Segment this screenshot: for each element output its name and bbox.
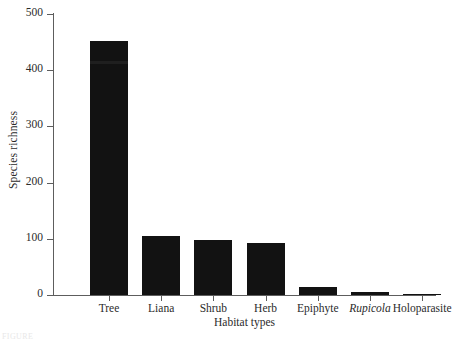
bar (247, 243, 285, 295)
x-axis-tick-label: Herb (254, 302, 277, 314)
bar (90, 41, 128, 295)
bar (299, 287, 337, 295)
bar (351, 292, 389, 295)
x-axis-tick-mark (318, 296, 319, 301)
x-axis-tick-mark (266, 296, 267, 301)
x-axis-tick-label: Shrub (200, 302, 227, 314)
x-axis-tick-label: Tree (99, 302, 120, 314)
x-axis-tick-label: Holoparasite (393, 302, 452, 314)
bar (142, 236, 180, 295)
bar (194, 240, 232, 295)
bars-layer (0, 0, 446, 295)
caption-fragment: FIGURE (2, 332, 33, 341)
y-axis-tick-mark (47, 295, 53, 296)
x-axis-tick-mark (370, 296, 371, 301)
x-axis-tick-label: Liana (148, 302, 174, 314)
x-axis-tick-mark (213, 296, 214, 301)
x-axis-title: Habitat types (53, 316, 436, 328)
x-axis-tick-mark (161, 296, 162, 301)
x-axis-tick-mark (422, 296, 423, 301)
x-axis-tick-label: Rupicola (349, 302, 391, 314)
x-axis-tick-label: Epiphyte (297, 302, 339, 314)
x-axis-line (53, 295, 436, 296)
x-axis-tick-mark (109, 296, 110, 301)
